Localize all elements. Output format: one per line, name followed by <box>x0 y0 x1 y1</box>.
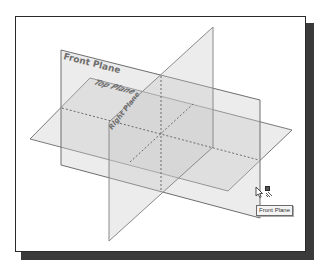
plane-scene: Front Plane Top Plane Right Plane <box>0 0 325 268</box>
cursor-tooltip: Front Plane <box>256 205 293 216</box>
plane-select-icon <box>265 186 272 197</box>
